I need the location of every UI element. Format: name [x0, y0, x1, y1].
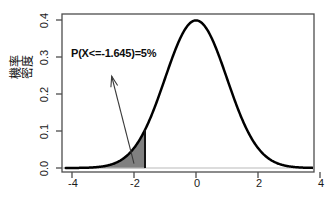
- y-tick-label: 0.1: [39, 121, 50, 143]
- normal-distribution-figure: 機率密度 P(X<=-1.645)=5% -4 -2 0 2 4 0.0 0.1…: [0, 0, 330, 211]
- annotation-arrow-shaft: [112, 76, 134, 163]
- y-axis-title: 機率密度: [10, 55, 34, 79]
- plot-canvas: [0, 0, 330, 211]
- y-tick-label: 0.0: [39, 158, 50, 180]
- y-tick-label: 0.4: [39, 10, 50, 32]
- x-tick-label: 2: [256, 178, 262, 189]
- density-curve: [66, 20, 326, 168]
- y-tick-label: 0.3: [39, 47, 50, 69]
- y-tick-label: 0.2: [39, 84, 50, 106]
- x-tick-label: 0: [194, 178, 200, 189]
- y-axis-title-text: 機率密度: [10, 55, 34, 79]
- x-tick-label: -2: [130, 178, 140, 189]
- probability-annotation-label: P(X<=-1.645)=5%: [71, 47, 156, 59]
- x-tick-label: 4: [318, 178, 324, 189]
- x-tick-label: -4: [68, 178, 78, 189]
- plot-frame: [62, 14, 314, 172]
